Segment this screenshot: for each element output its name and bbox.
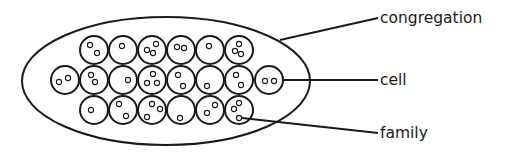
cell (225, 66, 253, 94)
cell-circle (225, 66, 253, 94)
congregation-leader-line (280, 18, 378, 40)
cell (109, 96, 137, 124)
family-label: family (380, 124, 428, 142)
cell (225, 96, 253, 124)
cell (109, 66, 137, 94)
cell-circle (51, 66, 79, 94)
cell-label: cell (380, 71, 407, 89)
cell-circle (196, 66, 224, 94)
cell (138, 36, 166, 64)
church-structure-diagram: congregation cell family (0, 0, 505, 153)
cell-circle (167, 66, 195, 94)
cell-circle (109, 36, 137, 64)
cell-circle (167, 36, 195, 64)
cell-circle (255, 66, 283, 94)
cell-circle (196, 36, 224, 64)
cell (167, 36, 195, 64)
cell-circle (138, 36, 166, 64)
cell (138, 96, 166, 124)
cell-circle (225, 36, 253, 64)
congregation-label: congregation (380, 9, 482, 27)
family-leader-line (242, 118, 378, 133)
cell (138, 66, 166, 94)
cell (225, 36, 253, 64)
cell (196, 96, 224, 124)
cell-circle (80, 36, 108, 64)
cell (196, 66, 224, 94)
cell (80, 96, 108, 124)
cell (109, 36, 137, 64)
cell-circle (109, 96, 137, 124)
cell-circle (138, 66, 166, 94)
cell (80, 36, 108, 64)
cells-group (51, 36, 283, 124)
cell (167, 66, 195, 94)
cell (196, 36, 224, 64)
cell-circle (196, 96, 224, 124)
cell (80, 66, 108, 94)
cell-circle (109, 66, 137, 94)
cell (255, 66, 283, 94)
cell (167, 96, 195, 124)
cell (51, 66, 79, 94)
